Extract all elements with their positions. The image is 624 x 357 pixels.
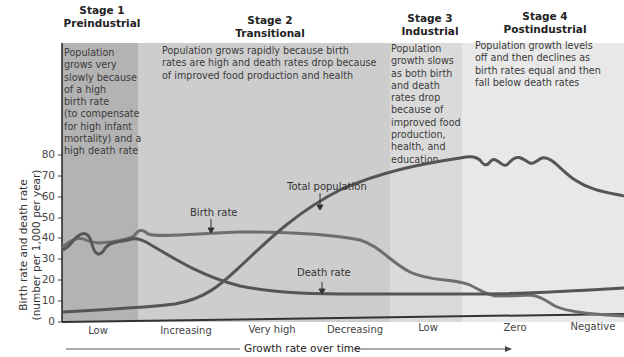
death-rate-label: Death rate xyxy=(297,267,351,278)
y-axis-label: Birth rate and death rate (number per 1,… xyxy=(17,145,43,345)
x-category-negative: Negative xyxy=(548,321,624,332)
birth-rate-label: Birth rate xyxy=(190,207,238,218)
arrow-right-icon xyxy=(505,346,512,352)
x-category-increasing: Increasing xyxy=(141,325,231,336)
y-axis-label-line1: Birth rate and death rate xyxy=(17,145,30,345)
x-category-low-1: Low xyxy=(53,325,143,336)
x-category-very-high: Very high xyxy=(227,324,317,335)
total-population-label: Total population xyxy=(287,181,367,192)
x-axis xyxy=(62,314,624,322)
y-axis-label-line2: (number per 1,000 per year) xyxy=(30,145,43,345)
death-rate-curve xyxy=(62,234,624,294)
x-category-zero: Zero xyxy=(470,322,560,333)
x-axis-title: Growth rate over time xyxy=(244,342,360,354)
chart-plot xyxy=(0,0,624,357)
x-category-low-2: Low xyxy=(383,322,473,333)
